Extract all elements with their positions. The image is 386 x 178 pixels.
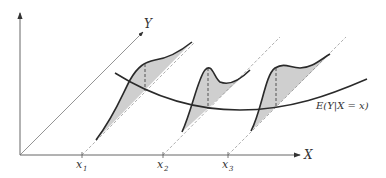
svg-text:1: 1 (83, 165, 87, 173)
density-x1 (82, 42, 194, 155)
regression-label: E(Y|X = x) (315, 100, 369, 112)
svg-text:x: x (222, 158, 229, 171)
y-axis-label: Y (144, 17, 153, 31)
density-x3 (228, 37, 346, 155)
tick-label-x3: x 3 (222, 158, 234, 173)
tick-label-x1: x 1 (76, 158, 87, 173)
svg-text:3: 3 (229, 165, 234, 173)
x-axis-label: X (303, 148, 313, 162)
svg-text:2: 2 (163, 165, 169, 173)
diagram-canvas: Y X x 1 x 2 x 3 E(Y|X = x) (0, 0, 386, 178)
svg-text:x: x (76, 158, 83, 171)
regression-diagram: Y X x 1 x 2 x 3 E(Y|X = x) (0, 0, 386, 178)
svg-text:x: x (157, 158, 164, 171)
tick-label-x2: x 2 (157, 158, 169, 173)
